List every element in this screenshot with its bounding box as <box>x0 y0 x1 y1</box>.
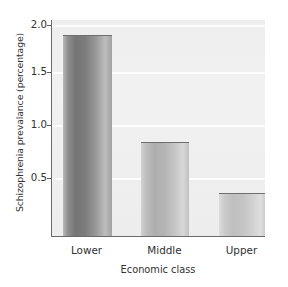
gridline-2-0 <box>52 25 265 27</box>
y-tick-label-1-0: 1.0 <box>21 119 47 130</box>
plot-area <box>51 20 265 237</box>
x-tick-label-upper: Upper <box>192 244 288 256</box>
bar-middle <box>141 142 189 236</box>
bar-lower <box>63 35 112 236</box>
bar-chart-figure: Schizophrenia prevalance (percentage) 2.… <box>0 0 288 287</box>
y-tick-label-0-5: 0.5 <box>21 172 47 183</box>
x-axis-title: Economic class <box>51 264 265 275</box>
bar-upper <box>219 193 265 236</box>
y-tick-label-1-5: 1.5 <box>21 66 47 77</box>
y-tick-label-2-0: 2.0 <box>21 19 47 30</box>
